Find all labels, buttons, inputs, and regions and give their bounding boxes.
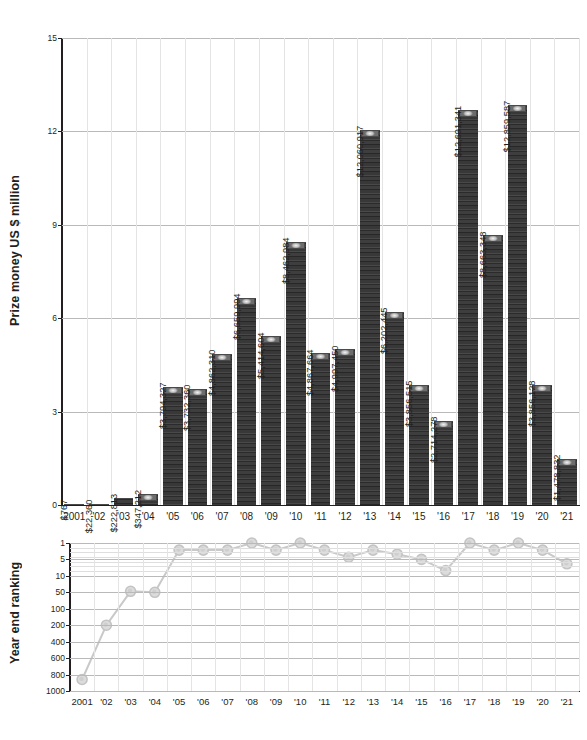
rank-chart-column-divider [143,543,144,691]
bar-chart-x-tick-label: '07 [215,512,228,522]
bar-value-label: $3,732,360 [183,385,192,432]
rank-chart-y-tick-mark [66,691,70,692]
rank-chart-column-divider [215,543,216,691]
bar-chart-column-divider [530,38,531,505]
rank-chart-x-tick-label: '10 [294,697,306,707]
bar-value-label: $3,856,515 [405,381,414,428]
bar-chart-x-tick-label: '17 [462,512,475,522]
rank-chart-y-tick-label: 5 [60,555,65,564]
bar-chart-y-tick-label: 3 [52,407,57,416]
rank-chart-y-tick-mark [66,658,70,659]
rank-chart-y-tick-label: 200 [51,621,65,630]
rank-chart-gridline [70,642,579,643]
bar-chart-x-tick-label: '03 [117,512,130,522]
rank-data-point [223,545,233,555]
rank-data-point [198,545,208,555]
bar-chart-y-tick-label: 9 [52,221,57,230]
rank-chart-minor-gridline [70,557,579,558]
bar: $22,360 [89,504,109,505]
rank-chart-y-tick-mark [66,576,70,577]
rank-chart-gridline [70,658,579,659]
rank-chart-gridline [70,543,579,544]
rank-chart-minor-gridline [70,548,579,549]
rank-chart-gridline [70,592,579,593]
bar-chart-x-tick-label: '12 [339,512,352,522]
rank-chart-column-divider [385,543,386,691]
rank-chart-minor-gridline [70,552,579,553]
bar-value-label: $6,659,994 [233,294,242,341]
rank-chart-x-tick-label: '03 [124,697,136,707]
bar: $5,414,604 [261,336,281,505]
rank-chart-column-divider [531,543,532,691]
rank-chart-y-tick-mark [66,625,70,626]
rank-chart-gridline [70,609,579,610]
rank-chart-y-axis-title: Year end ranking [8,533,22,693]
bar-chart-x-tick-label: '13 [363,512,376,522]
bar-chart-column-divider [259,38,260,505]
bar-value-label: $6,202,445 [380,308,389,355]
rank-line-svg [70,543,579,691]
rank-chart-y-tick-mark [66,675,70,676]
rank-chart-x-tick-label: '20 [536,697,548,707]
bar-chart-x-tick-label: '09 [265,512,278,522]
bar-chart-y-tick-mark [58,131,62,132]
bar-chart-column-divider [333,38,334,505]
rank-chart-column-divider [288,543,289,691]
rank-chart-x-tick-label: '08 [246,697,258,707]
bar-chart-y-tick-label: 6 [52,314,57,323]
rank-chart-x-tick-label: '14 [391,697,403,707]
rank-data-point [368,545,378,555]
rank-chart-column-divider [482,543,483,691]
bar-chart-y-tick-mark [58,38,62,39]
bar-chart-column-divider [234,38,235,505]
bar: $8,462,984 [286,242,306,505]
bar: $2,714,278 [434,421,454,506]
rank-chart-gridline [70,675,579,676]
bar: $4,862,310 [212,354,232,505]
rank-chart-x-tick-label: '19 [512,697,524,707]
bar-value-label: $3,794,327 [159,383,168,430]
bar-chart-column-divider [87,38,88,505]
rank-chart-column-divider [264,543,265,691]
bar: $4,997,450 [335,349,355,505]
bar: $6,202,445 [385,312,405,505]
bar: $8,663,348 [483,235,503,505]
bar-chart-x-tick-label: '18 [486,512,499,522]
bar-value-label: $12,859,587 [503,101,512,153]
rank-data-point [320,545,330,555]
bar-chart-y-tick-mark [58,412,62,413]
bar-chart-gridline [62,225,579,226]
bar-chart-x-tick-label: '06 [191,512,204,522]
bar-chart-x-tick-label: '02 [92,512,105,522]
bar: $222,813 [114,498,134,505]
bar-value-label: $3,856,128 [528,381,537,428]
rank-chart-gridline [70,625,579,626]
rank-chart-x-tick-label: '21 [561,697,573,707]
rank-chart-column-divider [118,543,119,691]
rank-chart-y-tick-mark [66,609,70,610]
bar-chart-column-divider [308,38,309,505]
rank-chart-y-tick-label: 1000 [46,687,65,696]
bar-value-label: $12,060,917 [356,126,365,178]
rank-data-point [271,545,281,555]
bar-value-label: $4,997,450 [331,345,340,392]
rank-chart-column-divider [458,543,459,691]
bar-chart-x-tick-label: '15 [412,512,425,522]
bar-chart-y-tick-mark [58,318,62,319]
rank-chart-y-tick-mark [66,592,70,593]
bar-value-label: $8,462,984 [282,238,291,285]
rank-chart-x-tick-label: '12 [343,697,355,707]
prize-money-bar-chart: Prize money US $ million 03691215$767200… [0,0,587,525]
rank-chart-y-tick-label: 100 [51,605,65,614]
rank-chart-y-tick-label: 600 [51,654,65,663]
rank-chart-x-tick-label: '16 [439,697,451,707]
rank-chart-x-tick-label: '04 [149,697,161,707]
rank-chart-y-tick-label: 800 [51,670,65,679]
rank-chart-column-divider [191,543,192,691]
bar-chart-y-axis-title: Prize money US $ million [8,0,22,500]
bar-chart-column-divider [136,38,137,505]
rank-chart-y-axis-line [69,543,71,691]
bar: $3,794,327 [163,387,183,505]
bar-chart-column-divider [579,38,580,505]
rank-chart-x-tick-label: '17 [464,697,476,707]
